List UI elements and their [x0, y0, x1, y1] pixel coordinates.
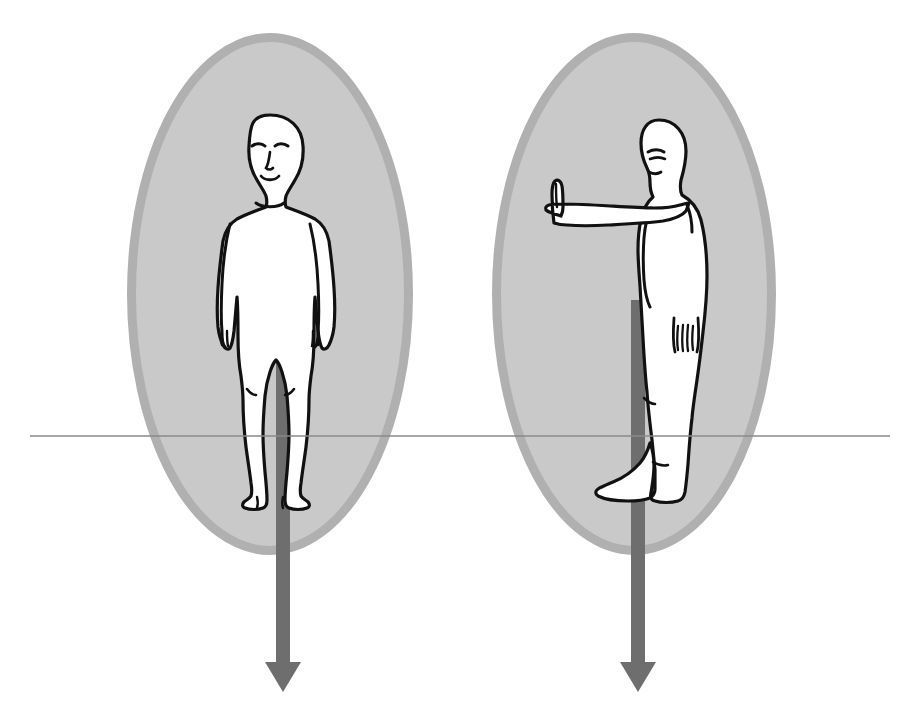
panel-side-view	[497, 38, 772, 693]
diagram-canvas: Anterior (front) view of standing human …	[0, 0, 919, 727]
figure-hand-thumb-side	[556, 184, 557, 207]
human-figures-diagram: Anterior (front) view of standing human …	[0, 0, 919, 727]
diagram-subject: human body orientation diagram	[0, 80, 229, 97]
panel-front-view	[132, 38, 409, 693]
